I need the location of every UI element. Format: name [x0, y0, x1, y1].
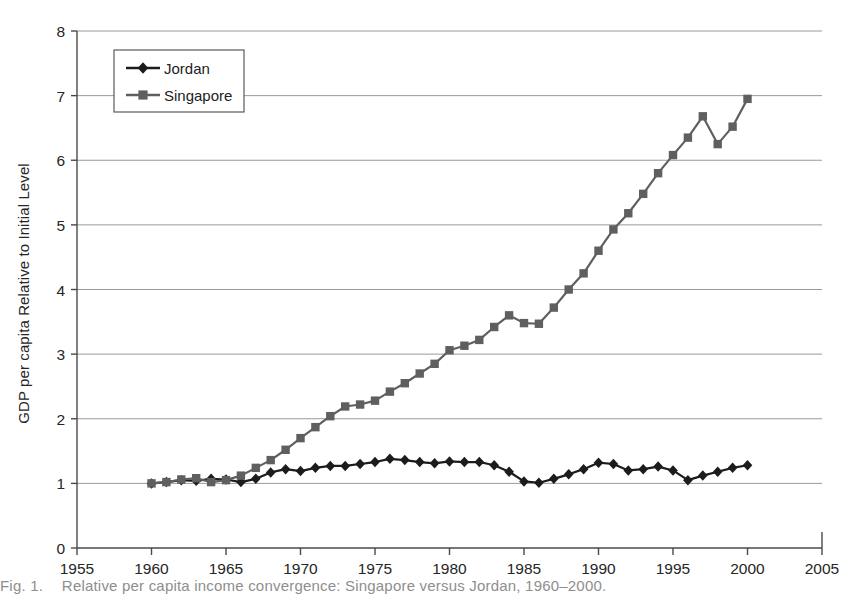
- svg-text:1995: 1995: [656, 560, 690, 577]
- svg-text:1955: 1955: [60, 560, 94, 577]
- svg-text:3: 3: [56, 346, 65, 363]
- chart-legend: JordanSingapore: [114, 50, 244, 112]
- svg-text:2000: 2000: [730, 560, 765, 577]
- figure-container: GDP per capita Relative to Initial Level…: [0, 0, 853, 600]
- svg-text:0: 0: [56, 540, 65, 557]
- svg-text:1965: 1965: [209, 560, 243, 577]
- svg-text:8: 8: [56, 23, 65, 40]
- svg-text:1975: 1975: [358, 560, 392, 577]
- y-tick-labels: 012345678: [56, 23, 77, 557]
- svg-text:1970: 1970: [283, 560, 318, 577]
- caption-text: Relative per capita income convergence: …: [62, 577, 607, 594]
- svg-text:7: 7: [56, 88, 65, 105]
- caption-prefix: Fig. 1.: [0, 577, 43, 594]
- data-series: [147, 95, 753, 489]
- figure-caption: Fig. 1. Relative per capita income conve…: [0, 577, 853, 594]
- svg-text:1: 1: [56, 475, 65, 492]
- svg-text:1980: 1980: [432, 560, 467, 577]
- svg-text:2005: 2005: [805, 560, 839, 577]
- svg-text:1960: 1960: [134, 560, 169, 577]
- svg-text:Singapore: Singapore: [164, 87, 232, 104]
- svg-text:1990: 1990: [581, 560, 616, 577]
- svg-text:1985: 1985: [507, 560, 541, 577]
- x-tick-labels: 1955196019651970197519801985199019952000…: [60, 548, 839, 577]
- svg-text:2: 2: [56, 411, 65, 428]
- svg-text:4: 4: [56, 282, 65, 299]
- svg-text:Jordan: Jordan: [164, 60, 210, 77]
- svg-text:5: 5: [56, 217, 65, 234]
- gdp-line-chart: 012345678 195519601965197019751980198519…: [0, 0, 853, 600]
- svg-text:6: 6: [56, 152, 65, 169]
